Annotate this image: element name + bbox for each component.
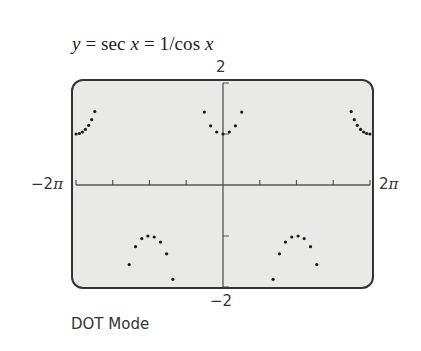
chart-title: y = sec x = 1/cos x bbox=[72, 33, 214, 55]
title-x-var-1: x bbox=[130, 33, 139, 54]
data-dot bbox=[146, 234, 149, 237]
title-y-var: y bbox=[72, 33, 81, 54]
data-dot bbox=[90, 118, 93, 121]
x-max-pi: π bbox=[389, 175, 399, 193]
data-dot bbox=[140, 237, 143, 240]
data-dot bbox=[128, 263, 131, 266]
data-dot bbox=[78, 132, 81, 135]
x-min-coef: 2 bbox=[44, 175, 54, 193]
title-x-var-2: x bbox=[205, 33, 214, 54]
x-min-label: −2π bbox=[31, 175, 63, 193]
data-dot bbox=[228, 130, 231, 133]
data-dot bbox=[159, 241, 162, 244]
data-dot bbox=[350, 110, 353, 113]
data-dot bbox=[75, 132, 78, 135]
data-dot bbox=[353, 118, 356, 121]
title-eq1: = sec bbox=[81, 33, 131, 54]
data-dot bbox=[365, 132, 368, 135]
y-min-label: −2 bbox=[210, 292, 232, 310]
data-dot bbox=[215, 130, 218, 133]
data-dot bbox=[272, 278, 275, 281]
data-dot bbox=[203, 111, 206, 114]
data-dot bbox=[81, 130, 84, 133]
data-dot bbox=[165, 252, 168, 255]
data-dot bbox=[359, 128, 362, 131]
data-dot bbox=[221, 132, 224, 135]
data-dot bbox=[134, 245, 137, 248]
data-dot bbox=[153, 235, 156, 238]
data-dot bbox=[356, 124, 359, 127]
x-min-pi: π bbox=[53, 175, 63, 193]
data-dot bbox=[309, 245, 312, 248]
data-dot bbox=[315, 263, 318, 266]
data-dot bbox=[303, 237, 306, 240]
data-dot bbox=[93, 110, 96, 113]
data-dot bbox=[234, 124, 237, 127]
data-dot bbox=[278, 252, 281, 255]
title-eq2: = 1/cos bbox=[139, 33, 205, 54]
data-dot bbox=[171, 278, 174, 281]
data-dot bbox=[87, 124, 90, 127]
calculator-screen bbox=[71, 79, 374, 289]
data-dot bbox=[290, 235, 293, 238]
y-max-label: 2 bbox=[216, 58, 226, 76]
x-max-coef: 2 bbox=[379, 175, 389, 193]
data-dot bbox=[209, 124, 212, 127]
x-max-label: 2π bbox=[379, 175, 398, 193]
plot-area bbox=[73, 81, 372, 287]
data-dot bbox=[84, 128, 87, 131]
data-dot bbox=[362, 130, 365, 133]
data-dot bbox=[368, 132, 371, 135]
data-dot bbox=[297, 234, 300, 237]
data-dot bbox=[284, 241, 287, 244]
mode-caption: DOT Mode bbox=[71, 315, 149, 333]
data-dot bbox=[240, 111, 243, 114]
